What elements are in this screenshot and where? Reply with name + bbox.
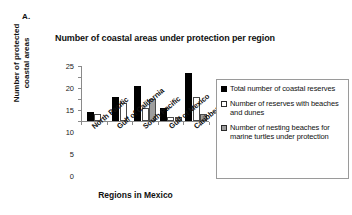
y-tick-label: 25 (66, 62, 74, 71)
x-axis-title: Regions in Mexico (58, 190, 213, 200)
y-tick-label: 20 (66, 84, 74, 93)
chart-legend: Total number of coastal reserves Number … (216, 79, 349, 179)
y-axis-title-text: Number of protected coastal areas (12, 24, 32, 103)
legend-label: Number of reserves with beaches and dune… (230, 99, 345, 117)
legend-item: Number of nesting beaches for marine tur… (221, 123, 345, 141)
figure-panel-a: A. Number of coastal areas under protect… (0, 0, 352, 215)
legend-label: Total number of coastal reserves (230, 84, 335, 93)
legend-item: Total number of coastal reserves (221, 84, 345, 93)
legend-swatch-total-reserves-icon (221, 86, 227, 92)
legend-swatch-beaches-dunes-icon (221, 101, 227, 107)
y-tick-label: 15 (66, 106, 74, 115)
legend-label: Number of nesting beaches for marine tur… (230, 123, 345, 141)
y-tick-mark: 25 (78, 66, 81, 67)
y-tick-mark: 10 (78, 99, 81, 100)
bar (87, 112, 94, 121)
chart-title: Number of coastal areas under protection… (0, 33, 330, 43)
y-tick-mark: 5 (78, 110, 81, 111)
y-axis-line (81, 66, 82, 122)
y-axis-title: Number of protected coastal areas (7, 12, 37, 114)
legend-swatch-nesting-beaches-icon (221, 125, 227, 131)
y-tick-mark: 20 (78, 77, 81, 78)
x-axis-category-labels: North PacificGulf of CaliforniaSouth Pac… (0, 122, 230, 180)
legend-item: Number of reserves with beaches and dune… (221, 99, 345, 117)
bar-group (87, 66, 102, 121)
y-tick-mark: 15 (78, 88, 81, 89)
